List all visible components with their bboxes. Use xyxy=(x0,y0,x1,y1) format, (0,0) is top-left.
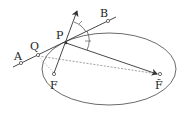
label-p: P xyxy=(56,30,63,41)
label-a: A xyxy=(14,51,22,62)
point-q xyxy=(36,53,39,56)
point-f-tilde xyxy=(158,72,161,75)
angle-arc-lower xyxy=(87,31,89,50)
dashed-line-q-f xyxy=(38,56,54,73)
diagram-canvas: A B Q P F F̃ xyxy=(0,0,184,119)
ellipse-diagram xyxy=(0,0,184,119)
label-f: F xyxy=(50,80,58,91)
label-q: Q xyxy=(30,41,39,52)
angle-arc-upper xyxy=(74,22,86,32)
dashed-line-q-ftilde xyxy=(38,56,158,74)
label-b: B xyxy=(100,8,108,19)
label-f-tilde: F̃ xyxy=(155,80,163,91)
ray-p-ftilde xyxy=(66,43,157,74)
tangent-line xyxy=(13,17,116,67)
angle-tick-upper xyxy=(79,21,82,24)
point-f xyxy=(52,72,55,75)
ellipse xyxy=(42,33,176,105)
point-p xyxy=(65,42,68,45)
